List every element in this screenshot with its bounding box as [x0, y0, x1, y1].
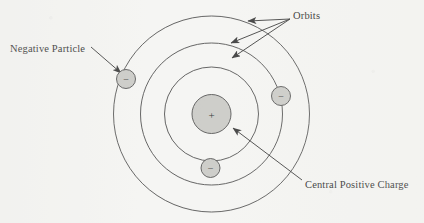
label-negative-particle: Negative Particle: [10, 44, 85, 55]
label-central-positive-charge: Central Positive Charge: [305, 180, 409, 191]
atom-diagram: + − − − Negative Particle Orbits Central…: [0, 0, 424, 223]
electron-outer-left-minus-sign: −: [123, 74, 129, 85]
leader-orbits-inner: [232, 19, 290, 58]
nucleus: +: [192, 95, 231, 134]
electron-outer-left: −: [117, 70, 136, 89]
electron-inner-bottom: −: [201, 159, 220, 178]
leader-central-charge: [233, 128, 302, 180]
label-orbits: Orbits: [293, 11, 320, 22]
leader-negative-particle: [91, 47, 121, 73]
leader-orbits-outer: [248, 19, 290, 21]
electron-middle-right: −: [272, 87, 291, 106]
nucleus-plus-sign: +: [208, 109, 214, 121]
electron-inner-bottom-minus-sign: −: [208, 163, 214, 174]
electron-middle-right-minus-sign: −: [278, 91, 284, 102]
